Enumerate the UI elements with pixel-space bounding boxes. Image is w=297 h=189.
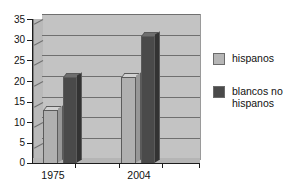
legend-swatch-icon-hispanos (213, 53, 225, 65)
bar-blancos-no-hispanos-1975 (63, 77, 77, 164)
bar-face (141, 36, 155, 164)
gridline-30 (42, 35, 200, 36)
y-tick-label-15: 15 (3, 97, 25, 107)
gridline-25 (42, 55, 200, 56)
y-tick-0 (27, 163, 33, 164)
x-tick-4 (199, 163, 200, 168)
x-tick-3 (162, 163, 163, 168)
gridline-35 (42, 14, 200, 15)
legend-item-blancos-no-hispanos: blancos no hispanos (213, 85, 297, 109)
legend-label-blancos-no-hispanos: blancos no hispanos (232, 85, 297, 109)
x-axis-label-1975: 1975 (33, 170, 73, 181)
y-tick-30 (27, 40, 33, 41)
bar-chart: 35 30 25 20 15 10 5 0 (0, 0, 297, 189)
y-tick-label-5: 5 (3, 138, 25, 148)
bar-side-face (155, 31, 160, 162)
y-tick-20 (27, 81, 33, 82)
x-tick-2 (119, 163, 120, 168)
y-tick-10 (27, 122, 33, 123)
y-tick-label-30: 30 (3, 35, 25, 45)
y-tick-label-20: 20 (3, 77, 25, 87)
legend-label-hispanos: hispanos (232, 52, 274, 64)
bar-side-face (77, 72, 82, 162)
legend-swatch-icon-blancos-no-hispanos (213, 86, 225, 98)
y-tick-label-10: 10 (3, 118, 25, 128)
bar-face (43, 110, 58, 164)
y-tick-label-35: 35 (3, 15, 25, 25)
y-tick-35 (27, 19, 33, 20)
legend-item-hispanos: hispanos (213, 52, 297, 65)
chart-legend: hispanos blancos no hispanos (213, 52, 297, 129)
y-tick-15 (27, 102, 33, 103)
x-axis-line (32, 163, 200, 164)
y-tick-label-25: 25 (3, 56, 25, 66)
bar-blancos-no-hispanos-2004 (141, 36, 155, 164)
y-tick-25 (27, 60, 33, 61)
bar-face (63, 77, 77, 164)
y-axis-labels: 35 30 25 20 15 10 5 0 (0, 0, 25, 189)
x-tick-1 (75, 163, 76, 168)
x-axis-label-2004: 2004 (119, 170, 159, 181)
bar-hispanos-1975 (43, 110, 58, 164)
y-tick-label-0: 0 (3, 158, 25, 168)
y-tick-5 (27, 143, 33, 144)
bar-hispanos-2004 (121, 77, 136, 164)
plot-area (33, 14, 200, 164)
bar-face (121, 77, 136, 164)
